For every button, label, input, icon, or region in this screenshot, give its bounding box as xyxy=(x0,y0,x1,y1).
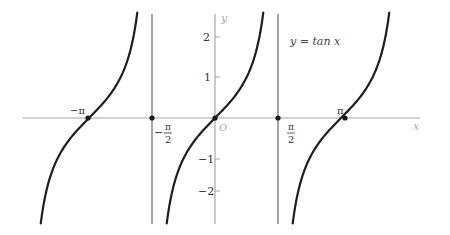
point-origin xyxy=(212,115,217,120)
neg-half-pi-numerator: π xyxy=(165,122,171,132)
point-half-pi xyxy=(275,115,280,120)
half-pi-numerator: π xyxy=(288,122,294,132)
equation-label: y = tan x xyxy=(289,35,341,48)
y-tick-label-1: 1 xyxy=(204,71,211,84)
y-tick-label-2: 2 xyxy=(203,31,210,44)
pi-label: π xyxy=(337,105,344,116)
y-axis-label: y xyxy=(220,12,228,25)
neg-half-pi-denominator: 2 xyxy=(165,134,171,145)
origin-label: O xyxy=(219,122,227,133)
point-neg-half-pi xyxy=(149,115,154,120)
y-tick-label-m1: −1 xyxy=(198,153,214,166)
neg-pi-label: −π xyxy=(70,105,85,116)
tan-graph: y x O 2 1 −1 −2 −π π − π 2 π 2 y = tan x xyxy=(0,0,450,235)
y-tick-label-m2: −2 xyxy=(198,185,214,198)
x-axis-label: x xyxy=(413,120,420,133)
neg-half-pi-sign: − xyxy=(154,126,163,139)
point-pi xyxy=(342,115,347,120)
half-pi-denominator: 2 xyxy=(288,134,294,145)
point-neg-pi xyxy=(85,115,90,120)
